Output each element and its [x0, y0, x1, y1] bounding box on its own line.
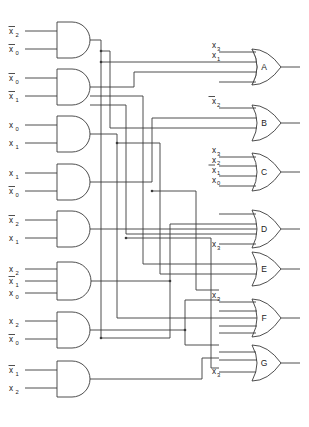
or-gate-C-input-2-label: x 2	[212, 156, 220, 167]
or-gate-C: C	[219, 153, 300, 191]
or-gate-F-input-x3-label: x 3	[212, 291, 220, 302]
or-gate-G-input-x3-label: x 3	[212, 367, 220, 378]
svg-text:2: 2	[16, 389, 19, 395]
and-gate-3	[25, 116, 117, 152]
svg-text:2: 2	[16, 322, 19, 328]
svg-text:x: x	[9, 277, 13, 286]
svg-text:x: x	[212, 97, 216, 106]
or-gate-B-letter: B	[261, 118, 267, 128]
svg-text:x: x	[9, 317, 13, 326]
svg-text:3: 3	[217, 46, 220, 52]
svg-text:1: 1	[217, 170, 220, 176]
and-gate-4-input-1-label: x 1	[9, 169, 19, 180]
or-gate-B: B	[219, 105, 300, 141]
svg-text:1: 1	[16, 144, 19, 150]
svg-text:1: 1	[16, 239, 19, 245]
or-gate-B-input-1-label: x 2	[209, 97, 221, 108]
svg-text:0: 0	[217, 180, 220, 186]
or-gate-A-input-1-label: x 3	[212, 41, 220, 52]
or-gate-D: D	[219, 210, 300, 248]
and-gate-1-input-1-label: x 2	[9, 27, 19, 38]
and-gate-4-input-2-label: x 0	[9, 187, 19, 198]
svg-text:x: x	[9, 169, 13, 178]
or-gate-C-letter: C	[261, 167, 267, 177]
and-gate-7-input-1-label: x 2	[9, 317, 19, 328]
svg-text:x: x	[212, 41, 216, 50]
svg-text:x: x	[9, 265, 13, 274]
svg-text:0: 0	[16, 50, 19, 56]
or-gate-G-letter: G	[261, 358, 268, 368]
svg-text:1: 1	[16, 371, 19, 377]
and-gate-6-input-2-label: x 1	[9, 277, 19, 288]
or-gate-C-input-3-label: x 1	[209, 165, 221, 176]
and-gate-5	[25, 211, 219, 247]
svg-text:x: x	[9, 335, 13, 344]
and-gate-7	[25, 312, 185, 348]
svg-text:x: x	[212, 240, 216, 249]
or-gate-D-input-x3-label: x 3	[212, 240, 220, 251]
svg-text:0: 0	[16, 192, 19, 198]
and-gate-6-input-3-label: x 0	[9, 289, 19, 300]
or-gate-G: G	[219, 345, 300, 381]
and-gate-6	[25, 262, 170, 300]
and-gate-8-input-1-label: x 1	[9, 366, 19, 377]
svg-text:1: 1	[217, 56, 220, 62]
routing-bus	[90, 40, 219, 379]
svg-text:3: 3	[217, 151, 220, 157]
and-gate-8	[25, 361, 185, 397]
and-gate-2-input-1-label: x 0	[9, 74, 19, 85]
and-gate-5-input-2-label: x 1	[9, 234, 19, 245]
svg-text:3: 3	[217, 245, 220, 251]
logic-circuit-diagram: x 2 x 0 x 0 x 1	[0, 0, 309, 427]
svg-text:x: x	[212, 176, 216, 185]
or-gate-A-input-2-label: x 1	[212, 51, 220, 62]
svg-text:x: x	[9, 27, 13, 36]
svg-text:2: 2	[217, 102, 220, 108]
or-gate-C-input-4-label: x 0	[212, 176, 220, 187]
svg-text:x: x	[212, 156, 216, 165]
svg-text:2: 2	[16, 221, 19, 227]
or-gate-F: F	[219, 299, 300, 337]
svg-text:1: 1	[16, 174, 19, 180]
svg-text:x: x	[212, 146, 216, 155]
svg-text:3: 3	[217, 296, 220, 302]
svg-text:x: x	[212, 166, 216, 175]
or-gate-E: E	[219, 252, 300, 286]
svg-text:x: x	[212, 291, 216, 300]
svg-text:0: 0	[16, 79, 19, 85]
svg-text:3: 3	[217, 372, 220, 378]
or-gate-D-letter: D	[261, 224, 267, 234]
svg-text:x: x	[212, 367, 216, 376]
svg-text:x: x	[9, 139, 13, 148]
or-gate-A: A	[219, 49, 300, 85]
svg-text:0: 0	[16, 126, 19, 132]
and-gate-4	[25, 164, 152, 200]
svg-text:1: 1	[16, 282, 19, 288]
svg-text:x: x	[9, 121, 13, 130]
svg-text:x: x	[9, 384, 13, 393]
svg-text:x: x	[9, 187, 13, 196]
svg-text:0: 0	[16, 294, 19, 300]
svg-text:x: x	[9, 74, 13, 83]
and-gate-1	[25, 22, 101, 58]
svg-text:2: 2	[16, 32, 19, 38]
and-gate-1-input-2-label: x 0	[9, 45, 19, 56]
svg-text:x: x	[9, 92, 13, 101]
and-gate-8-input-2-label: x 2	[9, 384, 19, 395]
and-gate-6-input-1-label: x 2	[9, 265, 19, 276]
svg-text:0: 0	[16, 340, 19, 346]
and-gate-3-input-2-label: x 1	[9, 139, 19, 150]
and-gate-2	[25, 69, 134, 105]
svg-text:2: 2	[217, 160, 220, 166]
and-gate-7-input-2-label: x 0	[9, 335, 19, 346]
svg-text:2: 2	[16, 270, 19, 276]
and-gate-5-input-1-label: x 2	[9, 216, 19, 227]
and-gate-2-input-2-label: x 1	[9, 92, 19, 103]
svg-text:x: x	[9, 366, 13, 375]
svg-text:1: 1	[16, 97, 19, 103]
circuit-canvas: x 2 x 0 x 0 x 1	[0, 0, 309, 427]
svg-text:x: x	[212, 51, 216, 60]
svg-text:x: x	[9, 234, 13, 243]
and-gate-3-input-1-label: x 0	[9, 121, 19, 132]
svg-text:x: x	[9, 216, 13, 225]
